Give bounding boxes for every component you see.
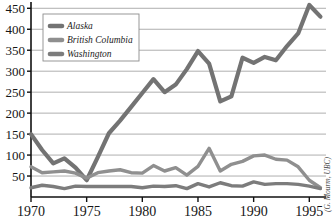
credit-text: (G. Mourm, UBC) <box>323 157 332 212</box>
legend: AlaskaBritish ColumbiaWashington <box>43 14 139 61</box>
y-tick-label: 150 <box>6 127 26 142</box>
credit-annotation: (G. Mourm, UBC) <box>323 157 332 212</box>
legend-label-british-columbia: British Columbia <box>67 35 133 45</box>
legend-label-washington: Washington <box>67 49 112 59</box>
series-line-washington <box>31 182 320 189</box>
y-tick-label: 200 <box>6 106 26 121</box>
y-axis-tick-labels: 50100150200250300350400450 <box>6 1 26 184</box>
y-tick-label: 100 <box>6 148 26 163</box>
y-tick-label: 250 <box>6 85 26 100</box>
y-tick-label: 450 <box>6 1 26 16</box>
x-tick-label: 1995 <box>295 204 323 219</box>
x-tick-label: 1985 <box>184 204 212 219</box>
x-tick-label: 1970 <box>17 204 45 219</box>
line-chart-figure: 50100150200250300350400450 1970197519801… <box>0 0 335 224</box>
y-tick-label: 400 <box>6 22 26 37</box>
legend-label-alaska: Alaska <box>66 21 93 31</box>
x-axis-tick-labels: 197019751980198519901995 <box>17 204 323 219</box>
y-tick-label: 50 <box>12 169 25 184</box>
y-tick-label: 350 <box>6 43 26 58</box>
y-tick-label: 300 <box>6 64 26 79</box>
x-tick-label: 1990 <box>240 204 268 219</box>
x-tick-label: 1975 <box>73 204 101 219</box>
x-tick-label: 1980 <box>128 204 156 219</box>
chart-canvas: 50100150200250300350400450 1970197519801… <box>0 0 335 224</box>
